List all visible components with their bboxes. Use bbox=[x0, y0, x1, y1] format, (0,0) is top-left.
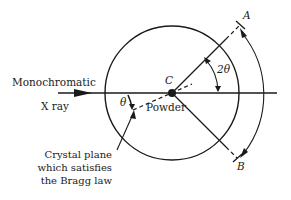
note-pointer bbox=[117, 114, 133, 150]
note-line-3: the Bragg law bbox=[30, 174, 112, 187]
arc-arrow-a-icon bbox=[240, 28, 247, 38]
arc-two-theta-arrow-down-icon bbox=[215, 86, 221, 92]
label-point-a: A bbox=[243, 10, 251, 21]
label-two-theta: 2θ bbox=[217, 64, 230, 75]
ray-to-a-dashed bbox=[226, 25, 240, 39]
note-line-2: which satisfies bbox=[30, 161, 112, 174]
label-powder: Powder bbox=[146, 102, 186, 113]
powder-sample-dot bbox=[168, 89, 176, 97]
powder-diffraction-diagram: Monochromatic X ray C Powder A B 2θ θ Cr… bbox=[0, 0, 291, 200]
crystal-plane-note: Crystal plane which satisfies the Bragg … bbox=[30, 148, 112, 187]
note-line-1: Crystal plane bbox=[30, 148, 112, 161]
ray-to-b-dashed bbox=[226, 147, 237, 158]
note-pointer-arrow-icon bbox=[130, 110, 136, 119]
label-point-b: B bbox=[237, 161, 245, 172]
label-x-ray: X ray bbox=[41, 101, 69, 112]
label-monochromatic: Monochromatic bbox=[12, 77, 96, 88]
beam-arrow-icon bbox=[74, 89, 92, 97]
label-theta: θ bbox=[120, 97, 126, 108]
label-center-c: C bbox=[165, 75, 173, 86]
